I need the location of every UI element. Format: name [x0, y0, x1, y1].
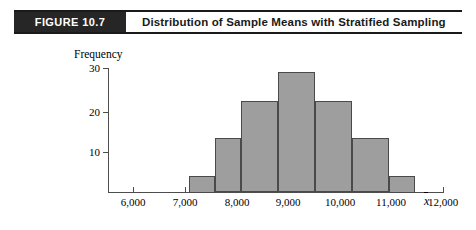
y-tick-label-20: 20 [60, 107, 100, 118]
histogram-bar-2 [215, 138, 241, 192]
x-bar-symbol: x [424, 194, 429, 209]
y-axis-title: Frequency [74, 48, 123, 60]
y-axis-line [108, 68, 109, 193]
histogram-bar-1 [189, 176, 215, 193]
histogram-bar-4 [278, 72, 315, 192]
y-tick-20 [103, 112, 108, 113]
histogram-bar-7 [389, 176, 415, 193]
x-axis-title: x [424, 194, 429, 209]
y-tick-30 [103, 68, 108, 69]
y-tick-label-10: 10 [60, 147, 100, 158]
x-tick-label-11000: 11,000 [368, 196, 414, 208]
x-tick-6000 [133, 187, 134, 192]
x-tick-12000 [443, 187, 444, 192]
x-tick-label-9000: 9,000 [265, 196, 311, 208]
x-tick-label-7000: 7,000 [162, 196, 208, 208]
y-tick-10 [103, 152, 108, 153]
histogram-bar-3 [241, 101, 278, 192]
histogram-bar-5 [315, 101, 352, 192]
y-tick-label-30: 30 [60, 63, 100, 74]
x-tick-label-8000: 8,000 [214, 196, 260, 208]
x-tick-label-10000: 10,000 [317, 196, 363, 208]
histogram-bar-6 [352, 138, 389, 192]
x-tick-7000 [185, 187, 186, 192]
x-tick-label-6000: 6,000 [110, 196, 156, 208]
histogram-chart: Frequency 30 20 10 6,000 7,000 8,000 9,0… [0, 0, 476, 230]
